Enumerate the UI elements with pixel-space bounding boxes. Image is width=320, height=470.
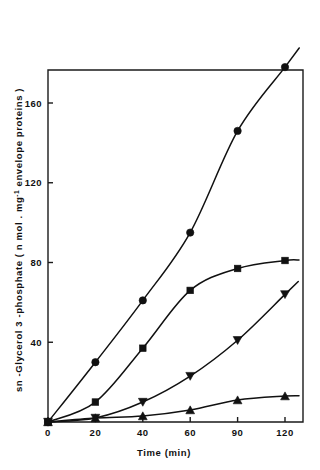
x-tick-label: 120 [276, 427, 293, 438]
y-tick-label: 120 [25, 177, 42, 188]
chart-canvas: 020406090120 4080120160 Time (min) sn -G… [0, 0, 320, 470]
y-axis-title: sn -Glycerol 3 -phosphate ( n mol . mg-1… [13, 88, 24, 392]
y-tick-labels: 4080120160 [25, 98, 42, 348]
marker-triangle-down [186, 372, 195, 380]
y-tick-label: 40 [30, 337, 42, 348]
y-axis-title-superscript: -1 [13, 190, 20, 197]
axis-ticks [48, 103, 285, 422]
x-tick-labels: 020406090120 [45, 427, 294, 438]
marker-square [140, 345, 147, 352]
marker-square [92, 399, 99, 406]
marker-circle [187, 229, 194, 236]
figure-panel: 020406090120 4080120160 Time (min) sn -G… [0, 0, 320, 470]
data-markers [44, 63, 290, 426]
data-curves [48, 48, 299, 422]
x-tick-label: 20 [90, 427, 102, 438]
marker-triangle-down [138, 398, 147, 406]
x-tick-label: 60 [184, 427, 196, 438]
x-tick-label: 90 [232, 427, 244, 438]
curve-circle [48, 48, 299, 422]
marker-circle [92, 358, 99, 365]
y-tick-label: 80 [30, 257, 42, 268]
marker-square [234, 265, 241, 272]
y-axis-title-part-main-after: envelope proteins ) [13, 88, 24, 190]
marker-circle [139, 297, 146, 304]
plot-frame [48, 70, 303, 422]
marker-square [187, 287, 194, 294]
x-tick-label: 0 [45, 427, 51, 438]
axis-frame [48, 70, 303, 422]
x-tick-label: 40 [137, 427, 149, 438]
marker-circle [281, 63, 288, 70]
marker-square [282, 257, 289, 264]
x-axis-title: Time (min) [137, 447, 191, 458]
y-tick-label: 160 [25, 98, 42, 109]
curve-triangle-down [48, 282, 298, 422]
y-axis-title-part-main-before: sn -Glycerol 3 -phosphate ( n mol . mg [13, 197, 24, 392]
marker-circle [234, 127, 241, 134]
